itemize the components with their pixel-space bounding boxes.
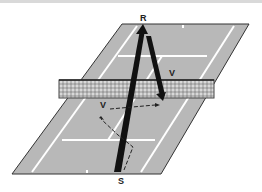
tennis-court-diagram [0,0,262,192]
volley-near-label: V [100,101,106,110]
net [59,80,214,98]
volley-far-label: V [169,69,175,78]
receiver-label: R [140,14,147,23]
server-label: S [118,177,124,186]
